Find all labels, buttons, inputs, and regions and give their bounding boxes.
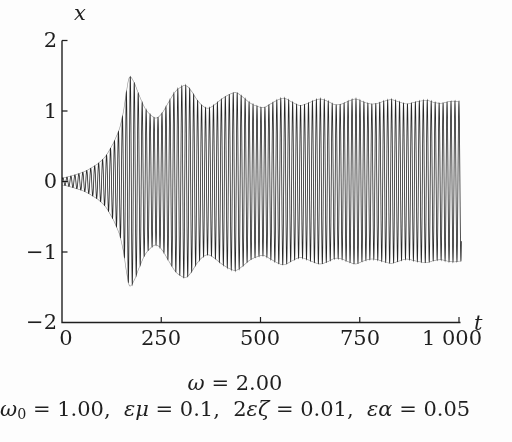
caption-line1: ω = 2.00: [0, 371, 470, 395]
caption-segment: εζ: [247, 397, 270, 421]
figure: x t 2 1 0 −1 −2 0 250 500 750 1 000 ω = …: [0, 0, 512, 442]
caption-segment: = 2.00: [205, 371, 283, 395]
x-tick-label-250: 250: [141, 327, 181, 349]
caption-line2: ω0 = 1.00, εμ = 0.1, 2εζ = 0.01, εα = 0.…: [0, 397, 470, 426]
x-tick-label-750: 750: [340, 327, 380, 349]
x-tick-label-1000: 1 000: [422, 327, 482, 349]
caption-segment: = 0.1,: [149, 397, 233, 421]
caption-segment: = 0.05: [392, 397, 470, 421]
y-axis-label: x: [74, 2, 86, 24]
x-tick-label-500: 500: [240, 327, 280, 349]
caption-segment: ω: [188, 371, 205, 395]
y-tick-label-neg1: −1: [0, 241, 57, 263]
caption-segment: = 0.01,: [269, 397, 367, 421]
caption-segment: ω: [0, 397, 17, 421]
caption-segment: 0: [17, 406, 26, 422]
x-tick-label-0: 0: [59, 327, 72, 349]
caption-segment: = 1.00,: [26, 397, 124, 421]
y-tick-label-2: 2: [0, 29, 57, 51]
caption-segment: 2: [233, 397, 246, 421]
y-tick-label-neg2: −2: [0, 311, 57, 333]
y-tick-label-0: 0: [0, 170, 57, 192]
y-tick-label-1: 1: [0, 100, 57, 122]
caption-segment: εα: [367, 397, 392, 421]
caption-segment: εμ: [124, 397, 149, 421]
